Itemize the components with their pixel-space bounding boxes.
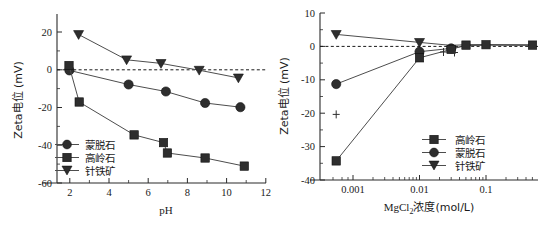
right-y-axis-title: Zeta电位 (mV) xyxy=(277,57,291,135)
right-ytick-label-neg40: -40 xyxy=(301,175,315,186)
right-legend-item-zhentiekuang[interactable]: 针铁矿 xyxy=(422,160,485,172)
zeta-potential-figure: 20 0 -20 -40 -60 2 4 6 8 xyxy=(0,0,548,227)
left-legend-label-gaolingshi: 高岭石 xyxy=(85,152,115,164)
left-xtick-label-6: 6 xyxy=(146,187,151,198)
right-chart-svg: 10 0 -10 -20 -30 -40 xyxy=(274,0,548,227)
right-ytick-label-neg30: -30 xyxy=(301,141,315,152)
left-chart-svg: 20 0 -20 -40 -60 2 4 6 8 xyxy=(0,0,274,227)
left-chart-legend: 蒙脱石 高岭石 针铁矿 xyxy=(55,139,115,177)
left-xtick-label-8: 8 xyxy=(185,187,190,198)
right-series-mengtuoshi xyxy=(332,44,533,89)
left-x-ticks xyxy=(70,178,266,183)
left-series-mengtuoshi xyxy=(65,66,245,112)
right-legend-label-mengtuoshi: 蒙脱石 xyxy=(455,147,485,159)
right-error-markers xyxy=(333,48,458,118)
right-legend-label-gaolingshi: 高岭石 xyxy=(455,134,485,146)
left-legend-item-zhentiekuang[interactable]: 针铁矿 xyxy=(55,165,115,177)
right-ytick-label-10: 10 xyxy=(305,8,316,19)
right-x-ticks xyxy=(333,175,532,180)
right-xtick-label-0001: 0.001 xyxy=(341,184,365,195)
left-xtick-label-12: 12 xyxy=(261,187,272,198)
left-ytick-label-20: 20 xyxy=(42,27,53,38)
right-y-ticks xyxy=(320,13,325,180)
right-series-gaolingshi xyxy=(332,41,537,166)
left-ytick-label-neg40: -40 xyxy=(38,140,52,151)
left-legend-label-mengtuoshi: 蒙脱石 xyxy=(85,139,115,151)
right-x-axis-title: MgCl2浓度(mol/L) xyxy=(384,200,475,216)
left-ytick-label-0: 0 xyxy=(47,64,52,75)
left-xtick-label-4: 4 xyxy=(106,187,112,198)
left-xtick-label-2: 2 xyxy=(67,187,72,198)
left-xtick-label-10: 10 xyxy=(221,187,232,198)
right-xtick-label-001: 0.01 xyxy=(410,184,428,195)
left-legend-item-gaolingshi[interactable]: 高岭石 xyxy=(55,152,115,164)
right-chart-panel: 10 0 -10 -20 -30 -40 xyxy=(274,0,548,227)
right-ytick-label-0: 0 xyxy=(310,41,315,52)
right-x-axis-title-base: MgCl xyxy=(384,201,410,213)
right-legend-item-gaolingshi[interactable]: 高岭石 xyxy=(422,134,485,146)
right-ytick-label-neg10: -10 xyxy=(301,74,315,85)
error-marker-1 xyxy=(333,110,340,118)
right-chart-legend: 高岭石 蒙脱石 针铁矿 xyxy=(422,134,485,172)
left-chart-panel: 20 0 -20 -40 -60 2 4 6 8 xyxy=(0,0,274,227)
left-ytick-label-neg20: -20 xyxy=(38,102,52,113)
right-xtick-label-01: 0.1 xyxy=(479,184,492,195)
right-x-axis-title-rest: 浓度(mol/L) xyxy=(413,200,474,214)
right-legend-item-mengtuoshi[interactable]: 蒙脱石 xyxy=(422,147,485,159)
left-series-zhentiekuang xyxy=(74,31,244,83)
left-ytick-label-neg60: -60 xyxy=(38,178,52,189)
left-legend-item-mengtuoshi[interactable]: 蒙脱石 xyxy=(55,139,115,151)
right-legend-label-zhentiekuang: 针铁矿 xyxy=(455,160,485,172)
left-legend-label-zhentiekuang: 针铁矿 xyxy=(85,165,115,177)
left-y-axis-title: Zeta电位 (mV) xyxy=(11,61,25,139)
right-ytick-label-neg20: -20 xyxy=(301,108,315,119)
left-x-axis-title: pH xyxy=(159,204,173,216)
left-y-ticks xyxy=(57,32,62,183)
